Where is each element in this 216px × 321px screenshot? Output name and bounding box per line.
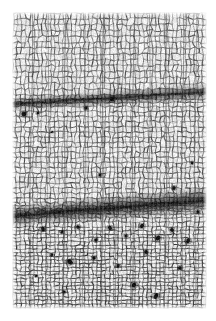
micrograph-figure <box>0 0 216 321</box>
micrograph-image <box>0 0 216 321</box>
